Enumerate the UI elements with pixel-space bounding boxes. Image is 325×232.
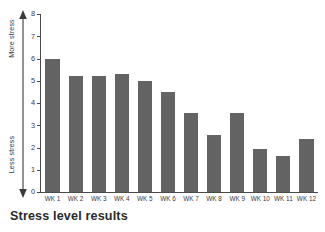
bar[interactable]	[299, 139, 313, 192]
bar[interactable]	[138, 81, 152, 192]
bar-slot[interactable]: WK 1	[45, 14, 59, 192]
more-stress-label: More stress	[7, 6, 16, 72]
y-tick-mark	[37, 81, 40, 82]
bar-slot[interactable]: WK 7	[184, 14, 198, 192]
y-tick-mark	[37, 148, 40, 149]
bar-slot[interactable]: WK 9	[230, 14, 244, 192]
bar[interactable]	[184, 113, 198, 192]
x-axis-line	[40, 192, 318, 193]
figure-caption: Stress level results	[10, 209, 128, 223]
y-tick-label: 4	[23, 99, 35, 106]
y-tick-label: 6	[23, 55, 35, 62]
y-tick-label: 1	[23, 166, 35, 173]
bar-slot[interactable]: WK 6	[161, 14, 175, 192]
bar[interactable]	[115, 74, 129, 192]
bar[interactable]	[230, 113, 244, 192]
y-tick-label: 2	[23, 144, 35, 151]
y-tick-mark	[37, 192, 40, 193]
bar[interactable]	[253, 149, 267, 192]
y-tick-mark	[37, 59, 40, 60]
less-stress-label: Less stress	[7, 122, 16, 188]
y-tick-mark	[37, 103, 40, 104]
y-tick-mark	[37, 170, 40, 171]
bar-slot[interactable]: WK 11	[276, 14, 290, 192]
y-tick-label: 3	[23, 122, 35, 129]
bar[interactable]	[45, 59, 59, 193]
bar-slot[interactable]: WK 8	[207, 14, 221, 192]
bar-slot[interactable]: WK 3	[92, 14, 106, 192]
bar[interactable]	[161, 92, 175, 192]
y-tick-mark	[37, 125, 40, 126]
y-tick-label: 5	[23, 77, 35, 84]
x-tick-label: WK 12	[293, 195, 319, 202]
y-tick-label: 0	[23, 188, 35, 195]
bar-slot[interactable]: WK 12	[299, 14, 313, 192]
y-tick-mark	[37, 14, 40, 15]
bar[interactable]	[207, 135, 221, 192]
bar[interactable]	[92, 76, 106, 192]
stress-level-bar-chart-figure: More stress Less stress 012345678 WK 1WK…	[0, 0, 325, 232]
bar[interactable]	[276, 156, 290, 192]
bar-slot[interactable]: WK 4	[115, 14, 129, 192]
bars-group: WK 1WK 2WK 3WK 4WK 5WK 6WK 7WK 8WK 9WK 1…	[41, 14, 318, 192]
bar-slot[interactable]: WK 2	[69, 14, 83, 192]
y-tick-label: 8	[23, 10, 35, 17]
plot-area: 012345678 WK 1WK 2WK 3WK 4WK 5WK 6WK 7WK…	[40, 14, 318, 192]
bar-slot[interactable]: WK 5	[138, 14, 152, 192]
y-tick-mark	[37, 36, 40, 37]
bar[interactable]	[69, 76, 83, 192]
y-tick-label: 7	[23, 33, 35, 40]
bar-slot[interactable]: WK 10	[253, 14, 267, 192]
